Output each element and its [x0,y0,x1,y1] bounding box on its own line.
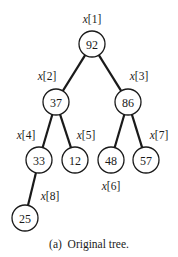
tree-edge [115,114,125,147]
index-label: x[3] [129,70,149,82]
node-value: 25 [19,212,31,226]
tree-edge [132,114,142,147]
node-value: 37 [50,96,62,110]
tree-edge [28,173,36,206]
index-label: x[7] [149,129,169,141]
tree-node: 12 [62,147,88,173]
tree-node: 25 [12,205,38,231]
tree-edge [63,55,85,91]
index-label: x[5] [76,129,96,141]
figure-caption: (a) Original tree. [0,238,178,250]
tree-edge [60,114,71,147]
index-label: x[8] [40,190,60,202]
index-label: x[2] [37,70,57,82]
tree-node: 57 [133,147,159,173]
tree-node: 86 [115,89,141,115]
node-value: 92 [86,38,98,52]
node-value: 33 [33,154,45,168]
tree-node: 48 [98,147,124,173]
tree-diagram: 9237863312485725 x[1]x[2]x[3]x[4]x[5]x[6… [0,0,178,257]
tree-edge [43,114,53,147]
index-label: x[4] [16,129,36,141]
tree-node: 37 [43,89,69,115]
node-value: 57 [140,154,152,168]
tree-edge [99,55,121,91]
node-value: 12 [69,154,81,168]
node-value: 48 [105,154,117,168]
node-value: 86 [122,96,134,110]
index-label: x[6] [101,180,121,192]
tree-node: 92 [79,31,105,57]
index-label: x[1] [82,13,102,25]
tree-node: 33 [26,147,52,173]
